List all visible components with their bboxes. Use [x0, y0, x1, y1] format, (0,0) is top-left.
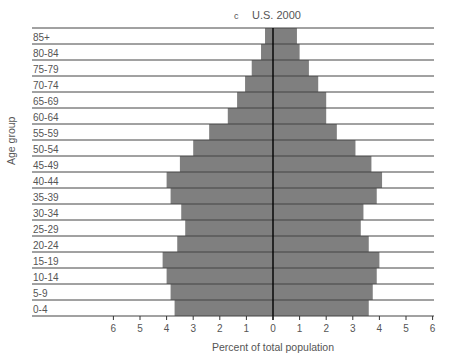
x-tick-label: 2 [323, 323, 329, 334]
age-group-label: 10-14 [33, 272, 59, 283]
bar-left [180, 156, 273, 172]
bar-right [273, 44, 300, 60]
bar-right [273, 172, 382, 188]
bar-left [177, 236, 273, 252]
age-group-label: 75-79 [33, 64, 59, 75]
bar-left [171, 284, 273, 300]
bar-right [273, 188, 377, 204]
bar-left [185, 220, 273, 236]
age-group-label: 35-39 [33, 192, 59, 203]
bar-right [273, 204, 363, 220]
bar-right [273, 76, 318, 92]
age-labels-layer: 85+80-8475-7970-7465-6960-6455-5950-5445… [33, 32, 59, 315]
x-tick-label: 1 [244, 323, 250, 334]
x-tick-label: 6 [111, 323, 117, 334]
bar-left [228, 108, 273, 124]
age-group-label: 65-69 [33, 96, 59, 107]
population-pyramid-chart: 85+80-8475-7970-7465-6960-6455-5950-5445… [0, 0, 450, 362]
age-group-label: 50-54 [33, 144, 59, 155]
x-tick-label: 4 [377, 323, 383, 334]
bar-right [273, 156, 371, 172]
bar-right [273, 92, 326, 108]
bar-right [273, 28, 297, 44]
age-group-label: 85+ [33, 32, 50, 43]
age-group-label: 30-34 [33, 208, 59, 219]
age-group-label: 25-29 [33, 224, 59, 235]
x-tick-label: 2 [217, 323, 223, 334]
x-tick-label: 3 [350, 323, 356, 334]
bar-right [273, 252, 379, 268]
bar-right [273, 60, 309, 76]
bar-left [181, 204, 273, 220]
x-axis-label: Percent of total population [0, 341, 450, 353]
age-group-label: 40-44 [33, 176, 59, 187]
bar-right [273, 140, 355, 156]
bar-right [273, 284, 373, 300]
age-group-label: 5-9 [33, 288, 48, 299]
x-tick-label: 4 [164, 323, 170, 334]
bar-left [209, 124, 273, 140]
x-tick-label: 0 [270, 323, 276, 334]
bar-left [252, 60, 273, 76]
bar-right [273, 108, 326, 124]
x-tick-label: 6 [430, 323, 436, 334]
bar-left [237, 92, 273, 108]
age-group-label: 0-4 [33, 304, 48, 315]
age-group-label: 70-74 [33, 80, 59, 91]
age-group-label: 45-49 [33, 160, 59, 171]
x-axis: 6543210123456 [111, 316, 436, 334]
bar-left [167, 172, 273, 188]
bar-left [167, 268, 273, 284]
x-tick-label: 3 [190, 323, 196, 334]
bar-left [245, 76, 273, 92]
bar-right [273, 124, 337, 140]
age-group-label: 20-24 [33, 240, 59, 251]
bar-left [261, 44, 273, 60]
bar-right [273, 220, 361, 236]
bar-right [273, 236, 369, 252]
x-tick-label: 1 [297, 323, 303, 334]
bar-left [193, 140, 273, 156]
bar-left [265, 28, 273, 44]
bar-right [273, 300, 369, 316]
bar-left [171, 188, 273, 204]
bar-left [163, 252, 273, 268]
age-group-label: 60-64 [33, 112, 59, 123]
bar-right [273, 268, 377, 284]
x-tick-label: 5 [403, 323, 409, 334]
age-group-label: 55-59 [33, 128, 59, 139]
bar-left [175, 300, 273, 316]
age-group-label: 80-84 [33, 48, 59, 59]
x-tick-label: 5 [137, 323, 143, 334]
age-group-label: 15-19 [33, 256, 59, 267]
